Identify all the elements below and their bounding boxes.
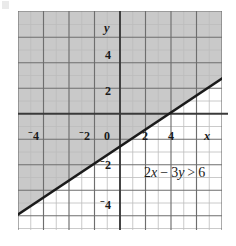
constant-term: 6 [198,165,205,180]
x-tick-value: 4 [33,129,39,143]
variable-y: y [178,165,184,180]
inequality-label: 2x−3y>6 [144,166,205,180]
x-tick-label-4: 4 [168,130,174,142]
x-tick-label-neg2: ⁻2 [79,130,90,142]
coefficient-x: 2 [144,165,151,180]
x-tick-label-neg4: ⁻4 [28,130,39,142]
y-tick-label-neg4: ⁻4 [100,199,111,211]
x-tick-label-2: 2 [142,130,148,142]
y-tick-label-4: 4 [105,49,111,61]
y-tick-label-2: 2 [105,85,111,97]
relation-operator: > [187,165,195,180]
inequality-graph-figure: ⁻4 ⁻2 0 2 4 x y 4 2 ⁻2 ⁻4 2x−3y>6 [0,0,236,246]
x-tick-value: 2 [84,129,90,143]
x-axis-label: x [204,130,210,143]
coordinate-plane-svg [0,0,236,246]
origin-label: 0 [104,130,110,142]
y-tick-value: 4 [105,198,111,212]
minus-operator: − [160,165,168,180]
y-tick-label-neg2: ⁻2 [100,159,111,171]
y-tick-value: 2 [105,158,111,172]
y-axis-label: y [104,22,110,35]
variable-x: x [151,165,157,180]
